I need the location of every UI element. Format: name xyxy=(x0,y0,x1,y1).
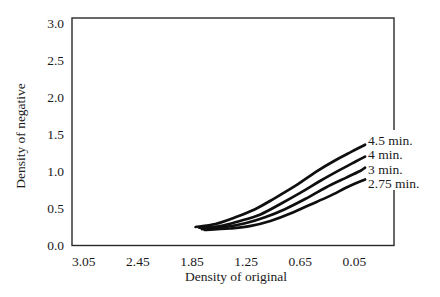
y-axis-tick-labels: 0.00.51.01.52.02.53.0 xyxy=(47,16,64,253)
x-tick-label: 2.45 xyxy=(126,254,150,269)
series-label-0: 4.5 min. xyxy=(368,133,413,148)
y-tick-label: 2.5 xyxy=(47,53,64,68)
x-tick-label: 0.05 xyxy=(343,254,367,269)
series-label-1: 4 min. xyxy=(368,147,403,162)
series-curve-0 xyxy=(196,145,366,227)
x-tick-label: 3.05 xyxy=(72,254,96,269)
x-axis-tick-labels: 3.052.451.851.250.650.05 xyxy=(72,254,366,269)
y-tick-label: 3.0 xyxy=(47,16,64,31)
series-label-3: 2.75 min. xyxy=(368,176,419,191)
series-curves xyxy=(196,145,366,230)
y-tick-label: 1.5 xyxy=(47,127,64,142)
y-tick-label: 0.0 xyxy=(47,238,64,253)
plot-border xyxy=(72,18,394,246)
y-tick-label: 0.5 xyxy=(47,201,64,216)
series-curve-3 xyxy=(205,180,366,230)
y-tick-label: 1.0 xyxy=(47,164,64,179)
series-label-2: 3 min. xyxy=(368,162,403,177)
density-curves-figure: 0.00.51.01.52.02.53.0 3.052.451.851.250.… xyxy=(0,0,440,297)
y-tick-label: 2.0 xyxy=(47,90,64,105)
chart-svg: 0.00.51.01.52.02.53.0 3.052.451.851.250.… xyxy=(0,0,440,297)
x-tick-label: 1.25 xyxy=(234,254,258,269)
y-axis-title: Density of negative xyxy=(13,83,28,189)
x-tick-label: 1.85 xyxy=(180,254,204,269)
x-tick-label: 0.65 xyxy=(288,254,312,269)
x-axis-title: Density of original xyxy=(185,269,287,284)
